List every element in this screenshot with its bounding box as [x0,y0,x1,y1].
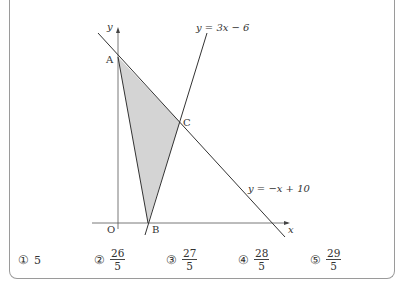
numerator: 29 [326,247,341,260]
denominator: 5 [114,260,121,272]
fraction: 27 5 [182,247,197,272]
line-3x-minus-6-label: y = 3x − 6 [195,22,250,33]
denominator: 5 [186,260,193,272]
coordinate-graph: y x O A B C y = 3x − 6 y = −x + 10 [0,0,400,250]
point-a-label: A [105,54,114,65]
answer-choices: ① 5 ② 26 5 ③ 27 5 ④ 28 5 ⑤ 29 5 [18,247,388,283]
choice-4[interactable]: ④ 28 5 [238,247,269,272]
y-axis-label: y [106,21,113,32]
point-b-label: B [152,224,159,235]
choice-marker: ③ [166,253,177,267]
y-axis-arrow-icon [116,27,120,33]
fraction: 26 5 [110,247,125,272]
numerator: 27 [182,247,197,260]
fraction: 29 5 [326,247,341,272]
choice-1[interactable]: ① 5 [18,253,41,267]
x-axis-label: x [288,224,294,235]
shaded-triangle-abc [118,57,180,223]
line-neg-x-plus-10-label: y = −x + 10 [247,183,311,194]
choice-5[interactable]: ⑤ 29 5 [310,247,341,272]
numerator: 28 [254,247,269,260]
choice-2[interactable]: ② 26 5 [94,247,125,272]
choice-marker: ④ [238,253,249,267]
choice-marker: ① [18,253,29,267]
fraction: 28 5 [254,247,269,272]
choice-marker: ② [94,253,105,267]
choice-3[interactable]: ③ 27 5 [166,247,197,272]
line-neg-x-plus-10 [98,33,285,237]
denominator: 5 [258,260,265,272]
choice-value: 5 [34,254,41,267]
choice-marker: ⑤ [310,253,321,267]
origin-label: O [107,224,115,235]
point-c-label: C [183,117,191,128]
numerator: 26 [110,247,125,260]
denominator: 5 [330,260,337,272]
